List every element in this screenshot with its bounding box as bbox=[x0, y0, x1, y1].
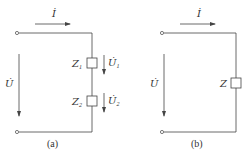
current-arrow-a: İ bbox=[35, 8, 70, 24]
terminal-top-a bbox=[15, 31, 18, 34]
terminal-top-b bbox=[160, 31, 163, 34]
current-label-b: İ bbox=[196, 8, 202, 19]
voltage-arrow-u2: U̇2 bbox=[104, 93, 119, 112]
circuit-b: İ U̇ Z (b) bbox=[150, 8, 241, 150]
voltage-label-a: U̇ bbox=[5, 78, 14, 89]
impedance-z: Z bbox=[219, 78, 241, 89]
current-arrow-b: İ bbox=[180, 8, 215, 24]
voltage-label-b: U̇ bbox=[150, 78, 159, 89]
u1-subscript: 1 bbox=[116, 63, 119, 69]
current-label-a: İ bbox=[51, 8, 57, 19]
impedance-z2: Z2 bbox=[71, 96, 97, 108]
svg-text:U̇1: U̇1 bbox=[108, 57, 119, 69]
terminal-bottom-b bbox=[160, 130, 163, 133]
voltage-arrow-b: U̇ bbox=[150, 54, 164, 116]
z2-subscript: 2 bbox=[79, 102, 82, 108]
z-name: Z bbox=[219, 78, 228, 89]
caption-a: (a) bbox=[47, 138, 58, 150]
voltage-arrow-a: U̇ bbox=[5, 54, 19, 116]
svg-text:U̇2: U̇2 bbox=[108, 95, 119, 107]
terminal-bottom-a bbox=[15, 130, 18, 133]
voltage-arrow-u1: U̇1 bbox=[104, 55, 119, 74]
svg-text:Z1: Z1 bbox=[71, 58, 82, 70]
u2-subscript: 2 bbox=[116, 101, 119, 107]
z1-subscript: 1 bbox=[79, 64, 82, 70]
impedance-z1: Z1 bbox=[71, 58, 97, 70]
caption-b: (b) bbox=[191, 138, 203, 150]
circuit-a: İ U̇ Z1 U̇1 Z2 bbox=[5, 8, 119, 150]
wires-a bbox=[19, 33, 92, 132]
circuit-diagrams: İ U̇ Z1 U̇1 Z2 bbox=[0, 0, 245, 157]
svg-text:Z2: Z2 bbox=[71, 96, 82, 108]
